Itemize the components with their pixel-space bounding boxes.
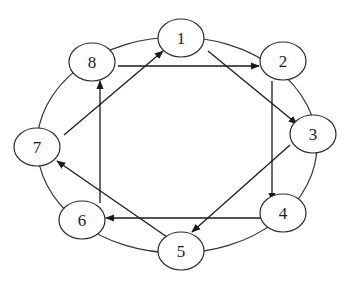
node-6-label: 6 [78, 211, 87, 230]
node-5: 5 [158, 232, 204, 270]
node-2: 2 [260, 42, 306, 80]
node-7: 7 [14, 128, 60, 166]
node-3: 3 [290, 115, 336, 153]
ring-graph-diagram: 1 2 3 4 5 6 7 8 [0, 0, 353, 283]
node-2-label: 2 [279, 52, 288, 71]
node-3-label: 3 [309, 125, 318, 144]
node-6: 6 [59, 201, 105, 239]
node-8-label: 8 [88, 53, 97, 72]
node-4-label: 4 [279, 204, 288, 223]
node-1: 1 [158, 19, 204, 57]
node-5-label: 5 [177, 242, 186, 261]
node-4: 4 [260, 194, 306, 232]
node-8: 8 [69, 43, 115, 81]
node-7-label: 7 [33, 138, 42, 157]
node-1-label: 1 [177, 29, 186, 48]
